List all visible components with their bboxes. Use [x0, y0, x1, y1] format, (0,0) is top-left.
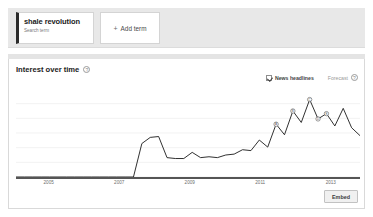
panel-header: Interest over time? News headlines Forec…	[9, 59, 364, 89]
search-term-card[interactable]: shale revolution Search term	[16, 12, 94, 44]
svg-text:E: E	[325, 112, 327, 116]
search-term-title: shale revolution	[24, 17, 93, 26]
x-axis-tick: 2013	[326, 180, 336, 185]
news-headlines-label: News headlines	[275, 75, 314, 81]
chart-plot-area[interactable]: ABCDE	[16, 89, 360, 177]
x-axis-tick: 2009	[185, 180, 195, 185]
trend-line-chart: ABCDE	[16, 89, 360, 177]
help-icon[interactable]: ?	[83, 66, 90, 73]
forecast-label: Forecast	[328, 75, 348, 81]
news-headlines-checkbox[interactable]: News headlines	[266, 75, 314, 81]
chart-controls: News headlines Forecast ?	[266, 74, 358, 81]
add-term-inner: + Add term	[113, 25, 146, 32]
x-axis-tick: 2005	[44, 180, 54, 185]
svg-text:A: A	[275, 122, 277, 126]
interest-over-time-panel: Interest over time? News headlines Forec…	[8, 59, 365, 209]
add-term-label: Add term	[121, 25, 147, 32]
forecast-toggle[interactable]: Forecast ?	[328, 74, 358, 81]
forecast-help-icon[interactable]: ?	[351, 74, 358, 81]
x-axis-line	[16, 177, 360, 179]
svg-text:B: B	[292, 109, 294, 113]
checkbox-checked-icon[interactable]	[266, 75, 272, 81]
search-terms-band: shale revolution Search term + Add term	[8, 8, 365, 48]
x-axis-tick: 2011	[255, 180, 265, 185]
series-line-shale-revolution	[16, 100, 360, 177]
chart-gridlines	[16, 104, 360, 177]
search-term-subtitle: Search term	[24, 27, 93, 34]
section-title-text: Interest over time	[16, 65, 79, 74]
plus-icon: +	[113, 25, 117, 32]
page-title: Interest over time?	[16, 65, 90, 74]
add-term-button[interactable]: + Add term	[100, 12, 160, 44]
embed-button[interactable]: Embed	[324, 190, 358, 203]
x-axis-tick: 2007	[114, 180, 124, 185]
x-axis-tick-labels: 20052007200920112013	[16, 180, 360, 190]
